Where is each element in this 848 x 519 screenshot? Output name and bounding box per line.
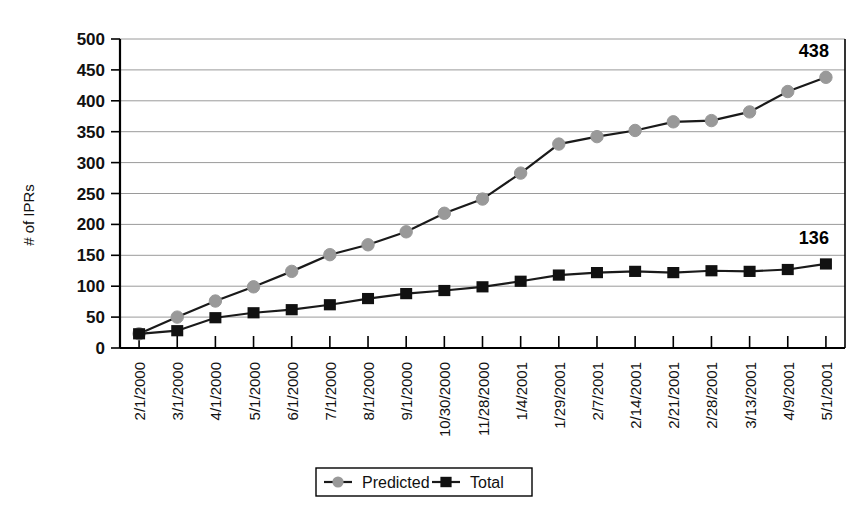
x-axis-tick-label: 9/1/2000 [398,362,415,420]
x-tick-marks [139,336,826,348]
x-axis-tick-label: 4/9/2001 [780,362,797,420]
x-axis-tick-label: 1/29/2001 [551,362,568,429]
legend-marker-circle-icon [332,476,343,487]
y-tick-marks [111,39,120,348]
x-axis-tick-label: 1/4/2001 [513,362,530,420]
data-point-marker [362,239,374,251]
data-point-marker [705,265,717,276]
y-axis-tick-label: 450 [77,61,105,80]
x-axis-tick-label: 2/14/2001 [627,362,644,429]
x-axis-tick-label: 3/1/2000 [169,362,186,420]
data-point-marker [324,248,336,260]
data-point-marker [171,325,183,336]
data-point-marker [782,264,794,275]
y-axis-tick-label: 400 [77,92,105,111]
line-chart: 050100150200250300350400450500 # of IPRs… [0,0,848,519]
data-point-marker [705,114,717,126]
data-point-marker [515,276,527,287]
data-point-marker [324,299,336,310]
x-axis-tick-label: 6/1/2000 [284,362,301,420]
x-axis-tick-label: 11/28/2000 [475,362,492,436]
series-line [139,264,826,334]
data-point-marker [400,288,412,299]
chart-container: 050100150200250300350400450500 # of IPRs… [0,0,848,519]
data-point-marker [667,116,679,128]
x-axis-tick-label: 8/1/2000 [360,362,377,420]
data-point-marker [820,258,832,269]
data-point-marker [362,293,374,304]
x-axis-tick-label: 3/13/2001 [742,362,759,429]
data-point-marker [247,281,259,293]
y-axis-tick-label: 250 [77,185,105,204]
data-point-marker [476,193,488,205]
data-point-marker [400,226,412,238]
chart-legend: PredictedTotal [316,468,532,496]
x-axis-tick-label: 7/1/2000 [322,362,339,420]
y-axis-tick-label: 50 [86,308,105,327]
data-point-marker [744,266,756,277]
data-series [133,71,832,340]
x-axis-tick-label: 2/28/2001 [703,362,720,429]
y-axis-title: # of IPRs [20,184,37,246]
data-point-marker [820,71,832,83]
data-point-marker [629,266,641,277]
data-point-marker [171,311,183,323]
data-point-marker [286,304,298,315]
x-axis-tick-label: 5/1/2000 [246,362,263,420]
data-point-marker [209,295,221,307]
legend-marker-square-icon [440,477,451,487]
data-point-marker [629,124,641,136]
data-annotation-label: 438 [799,41,829,61]
y-axis-tick-label: 300 [77,154,105,173]
x-axis-tick-label: 2/7/2001 [589,362,606,420]
data-point-marker [438,285,450,296]
data-point-marker [591,130,603,142]
y-axis-tick-label: 350 [77,123,105,142]
data-point-marker [553,138,565,150]
x-axis-tick-label: 2/21/2001 [665,362,682,429]
y-axis-tick-labels: 050100150200250300350400450500 [77,30,105,358]
data-point-marker [286,265,298,277]
y-axis-tick-label: 500 [77,30,105,49]
data-point-marker [438,207,450,219]
x-axis-tick-label: 2/1/2000 [131,362,148,420]
data-point-marker [133,328,145,339]
series-total [133,258,832,339]
legend-item-label: Predicted [362,474,430,491]
x-axis-tick-label: 10/30/2000 [436,362,453,437]
y-axis-tick-label: 200 [77,215,105,234]
data-point-marker [248,307,260,318]
y-axis-tick-label: 150 [77,246,105,265]
legend-item-label: Total [470,474,504,491]
data-point-marker [477,281,489,292]
x-axis-tick-label: 5/1/2001 [818,362,835,420]
x-axis-tick-label: 4/1/2000 [207,362,224,420]
series-predicted [133,71,832,340]
x-axis-tick-labels: 2/1/20003/1/20004/1/20005/1/20006/1/2000… [131,362,835,437]
data-point-marker [591,267,603,278]
y-axis-tick-label: 0 [96,339,105,358]
data-point-marker [514,167,526,179]
data-annotation-label: 136 [799,228,829,248]
data-point-marker [743,106,755,118]
data-point-marker [209,312,221,323]
data-point-marker [667,267,679,278]
data-point-marker [553,269,565,280]
y-axis-tick-label: 100 [77,277,105,296]
data-point-marker [782,85,794,97]
